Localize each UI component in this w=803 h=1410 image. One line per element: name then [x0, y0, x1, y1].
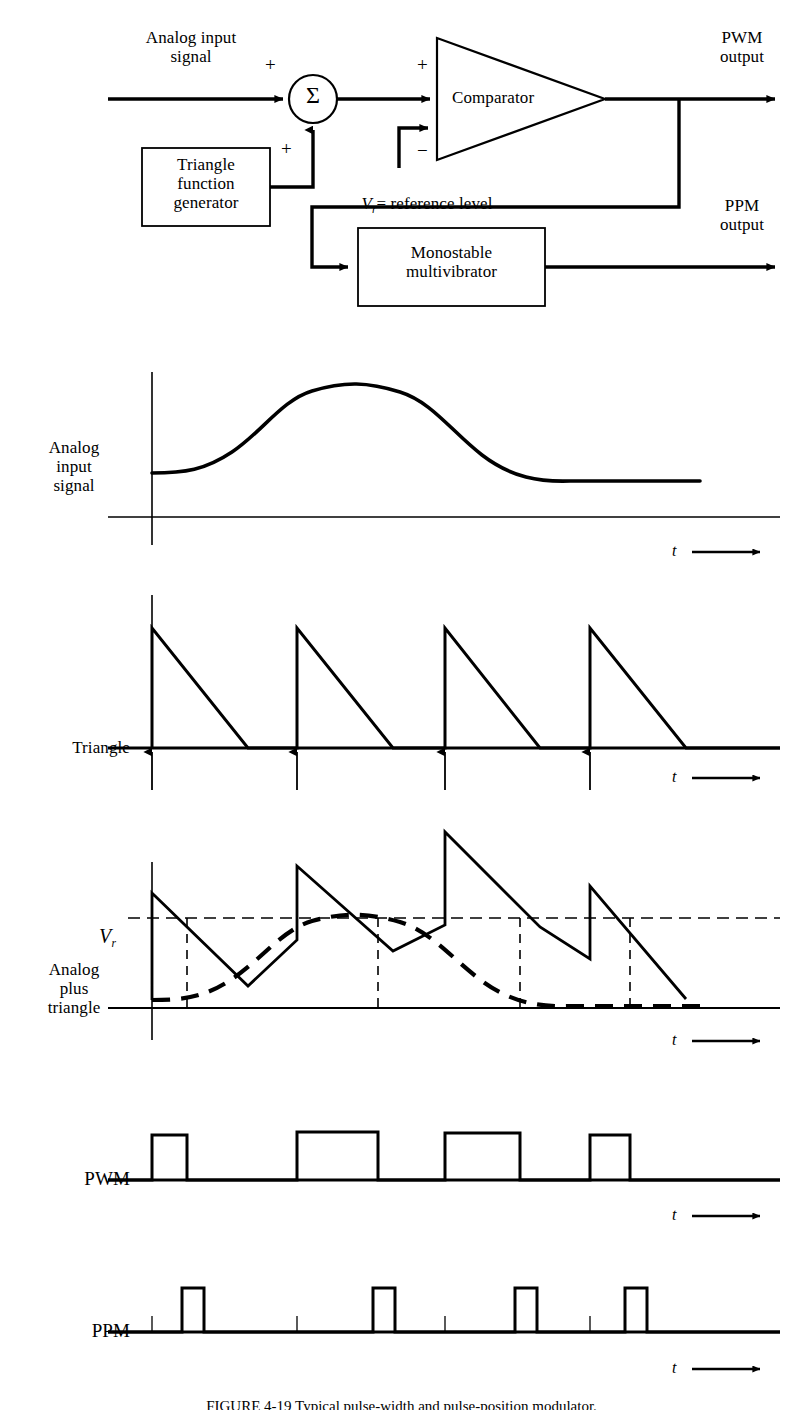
waveform-label-pwm: PWM — [8, 1168, 130, 1189]
pwm-output-label: PWMoutput — [690, 28, 794, 66]
ppm-trace — [108, 1288, 780, 1332]
summer-sigma-symbol: Σ — [293, 82, 333, 109]
analog-dashed-underlay — [152, 915, 700, 1006]
waveform-label-triangle: Triangle — [8, 738, 130, 757]
analog-input-curve — [152, 384, 700, 481]
waveform-analog-input-group — [108, 372, 780, 552]
triangle-function-generator-label: Trianglefunctiongenerator — [142, 155, 270, 212]
comparator-label: Comparator — [452, 88, 534, 107]
summer-plus-bottom-label: + — [281, 138, 292, 159]
reference-level-text: = reference level — [376, 194, 492, 213]
time-axis-label-pwm: t — [672, 1206, 677, 1224]
comparator-plus-label: + — [417, 54, 428, 75]
reference-level-v-symbol: V — [361, 194, 371, 213]
comparator-minus-label: − — [417, 140, 428, 161]
waveform-label-analog-input: Analoginputsignal — [18, 438, 130, 495]
triangle-sawtooth-trace — [152, 628, 780, 748]
time-axis-label-triangle: t — [672, 768, 677, 786]
waveform-pwm-group — [108, 1132, 780, 1216]
waveform-label-ppm: PPM — [8, 1320, 130, 1341]
waveform-triangle-group — [108, 595, 780, 790]
reference-level-label: Vr= reference level — [344, 175, 493, 236]
summer-plus-top-label: + — [265, 54, 276, 75]
waveform-ppm-group — [108, 1288, 780, 1369]
analog-input-signal-label: Analog inputsignal — [96, 28, 286, 66]
waveform-analog-plus-triangle-group — [108, 832, 780, 1041]
vr-v-symbol: V — [99, 925, 111, 947]
figure-root: Analog inputsignal Σ + + Trianglefunctio… — [0, 0, 803, 1410]
pwm-trace — [108, 1132, 780, 1180]
time-axis-label-sum: t — [672, 1031, 677, 1049]
monostable-multivibrator-label: Monostablemultivibrator — [358, 243, 545, 281]
figure-caption: FIGURE 4-19 Typical pulse-width and puls… — [0, 1398, 803, 1410]
vr-subscript: r — [111, 937, 116, 950]
time-axis-label-ppm: t — [672, 1359, 677, 1377]
ppm-output-label: PPMoutput — [690, 196, 794, 234]
sum-sawtooth-trace — [152, 832, 686, 1000]
waveform-label-analog-plus-triangle: Analogplustriangle — [18, 960, 130, 1017]
time-axis-label-analog: t — [672, 542, 677, 560]
